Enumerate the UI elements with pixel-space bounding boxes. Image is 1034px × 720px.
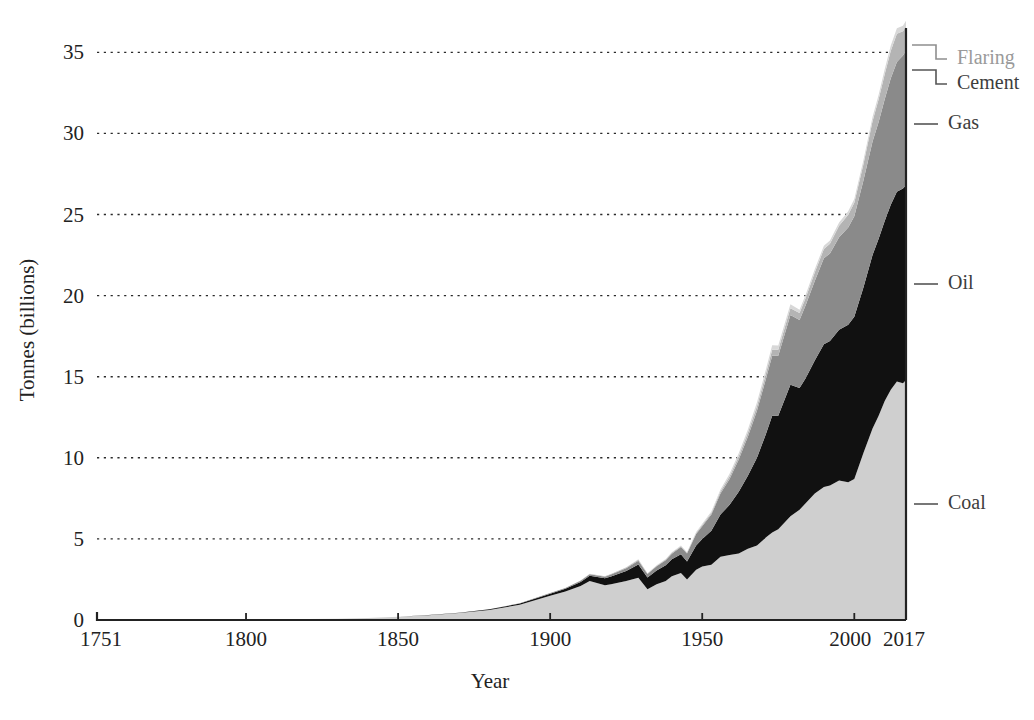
legend-leader-cement xyxy=(912,70,947,84)
legend-label-gas: Gas xyxy=(948,111,979,133)
y-tick-label-10: 10 xyxy=(63,446,84,470)
legend-label-oil: Oil xyxy=(948,271,974,293)
x-tick-label-1900: 1900 xyxy=(529,627,571,651)
y-tick-label-15: 15 xyxy=(63,365,84,389)
y-tick-label-20: 20 xyxy=(63,284,84,308)
x-tick-label-2017: 2017 xyxy=(883,627,925,651)
legend-label-flaring: Flaring xyxy=(957,46,1015,69)
stacked-area-series xyxy=(97,21,906,620)
legend-label-coal: Coal xyxy=(948,491,986,513)
chart-canvas: 05101520253035 1751180018501900195020002… xyxy=(0,0,1034,720)
x-tick-label-1800: 1800 xyxy=(225,627,267,651)
y-tick-label-35: 35 xyxy=(63,40,84,64)
legend-label-cement: Cement xyxy=(957,71,1020,93)
x-axis-title: Year xyxy=(471,669,510,693)
y-tick-label-5: 5 xyxy=(74,527,85,551)
co2-emissions-stacked-area-figure: 05101520253035 1751180018501900195020002… xyxy=(0,0,1034,720)
x-tick-label-1850: 1850 xyxy=(377,627,419,651)
y-tick-label-30: 30 xyxy=(63,121,84,145)
legend-leader-flaring xyxy=(912,45,947,59)
y-tick-label-25: 25 xyxy=(63,203,84,227)
y-axis-tick-labels: 05101520253035 xyxy=(63,40,84,632)
y-axis-title: Tonnes (billions) xyxy=(15,259,39,402)
x-tick-label-1950: 1950 xyxy=(681,627,723,651)
x-axis-tick-labels: 1751180018501900195020002017 xyxy=(80,627,925,651)
x-tick-label-1751: 1751 xyxy=(80,627,122,651)
x-tick-label-2000: 2000 xyxy=(829,627,871,651)
legend: FlaringCementGasOilCoal xyxy=(912,45,1020,513)
